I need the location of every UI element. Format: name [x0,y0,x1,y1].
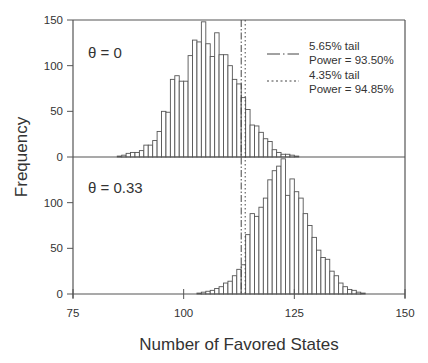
histogram-bar [308,226,312,295]
histogram-bar [228,66,232,157]
y-tick-label: 100 [44,60,63,72]
histogram-bar [299,198,303,294]
histogram-bar [188,56,192,157]
histogram-bar [153,141,157,157]
histogram-bar [175,76,179,157]
histogram-bar [277,152,281,157]
histogram-bar [215,289,219,294]
histogram-bar [193,40,197,157]
panel-label-top: θ = 0 [88,44,122,61]
histogram-bar [285,195,289,294]
histogram-bar [334,276,338,294]
histogram-bar [330,271,334,294]
legend: 5.65% tail Power = 93.50% 4.35% tail Pow… [267,40,394,95]
x-tick-label: 150 [395,307,414,319]
y-axis-title: Frequency [12,116,31,197]
histogram-bar [219,287,223,294]
histogram-bar [259,207,263,294]
y-tick-label: 0 [57,288,63,300]
histogram-bar [210,57,214,157]
histogram-bar [254,216,258,294]
histogram-bar [325,259,329,294]
histogram-bar [268,180,272,294]
histogram-bar [224,55,228,157]
histogram-bar [170,79,174,157]
histogram-bar [219,55,223,157]
y-tick-label: 150 [44,14,63,26]
histogram-bar [179,81,183,157]
legend-2-line-2: Power = 94.85% [309,83,394,95]
histogram-bar [184,81,188,157]
histogram-bar [144,145,148,157]
x-tick-label: 100 [174,307,193,319]
bottom-panel-bars [197,159,365,294]
histogram-bar [303,214,307,294]
y-tick-label: 50 [50,242,63,254]
panel-label-bottom: θ = 0.33 [88,179,143,196]
histogram-bar [162,111,166,157]
histogram-bar [339,283,343,294]
histogram-bar [316,250,320,294]
histogram-bar [215,33,219,157]
histogram-bar [254,126,258,157]
histogram-bar [250,214,254,294]
histogram-bar [272,171,276,294]
histogram-bar [232,276,236,294]
histogram-bar [135,152,139,157]
x-axis-title: Number of Favored States [139,335,338,354]
histogram-bar [131,152,135,157]
histogram-bar [201,22,205,157]
legend-1-line-2: Power = 93.50% [309,54,394,66]
histogram-bar [237,269,241,294]
histogram-bar [347,289,351,294]
histogram-bar [259,132,263,157]
histogram-bar [312,237,316,294]
x-tick-label: 75 [67,307,80,319]
histogram-bar [157,131,161,157]
x-tick-label: 125 [285,307,304,319]
histogram-bar [197,42,201,157]
histogram-bar [224,283,228,294]
histogram-bar [263,198,267,294]
histogram-bar [246,235,250,294]
y-tick-label: 100 [44,197,63,209]
y-axis: 050100150050100 [44,14,73,300]
histogram-bar [272,150,276,157]
legend-1-line-1: 5.65% tail [309,40,360,52]
histogram-bar [250,125,254,157]
histogram-bar [268,141,272,157]
y-tick-label: 50 [50,105,63,117]
histogram-chart: 050100150050100 75100125150 θ = 0 θ = 0.… [0,0,428,363]
y-tick-label: 0 [57,151,63,163]
histogram-bar [228,281,232,294]
histogram-bar [139,151,143,157]
histogram-bar [166,112,170,157]
legend-2-line-1: 4.35% tail [309,69,360,81]
histogram-bar [246,110,250,157]
histogram-bar [294,192,298,294]
histogram-bar [321,257,325,294]
histogram-bar [232,79,236,157]
histogram-bar [277,166,281,294]
histogram-bar [206,44,210,157]
histogram-bar [290,179,294,294]
top-panel-bars [117,22,298,157]
histogram-bar [237,84,241,157]
histogram-bar [148,145,152,157]
histogram-bar [281,159,285,294]
histogram-bar [343,287,347,294]
histogram-bar [263,139,267,157]
